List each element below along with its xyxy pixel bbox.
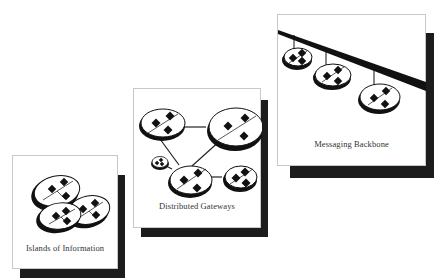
network-node [358, 84, 400, 114]
stage-label: Messaging Backbone [278, 139, 425, 149]
panel: Messaging Backbone [277, 14, 426, 166]
stage-label: Distributed Gateways [134, 201, 260, 211]
stage-label: Islands of Information [13, 243, 117, 253]
network-node [282, 48, 312, 70]
network-node [168, 166, 212, 198]
network-node [139, 109, 185, 141]
network-node [207, 108, 262, 151]
panel: Distributed Gateways [133, 88, 261, 228]
network-node [151, 157, 169, 171]
network-node [223, 166, 257, 192]
network-node [313, 64, 351, 90]
panel: Islands of Information [12, 155, 118, 269]
